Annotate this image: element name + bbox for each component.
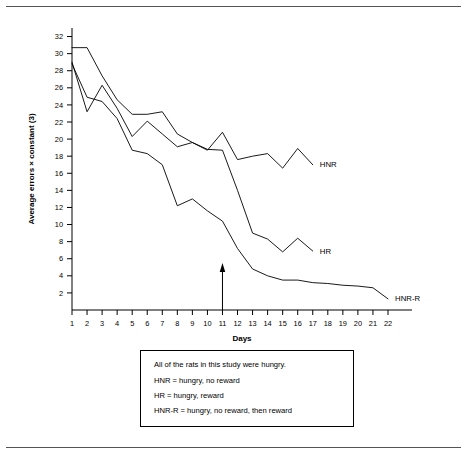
x-tick-label: 21: [369, 319, 377, 328]
y-tick-label: 6: [59, 254, 63, 263]
x-tick-label: 15: [279, 319, 287, 328]
x-tick-label: 7: [160, 319, 164, 328]
y-tick-label: 8: [59, 237, 63, 246]
chart-series-lines: [72, 48, 388, 299]
y-tick-label: 10: [55, 220, 63, 229]
y-tick-label: 18: [55, 152, 63, 161]
y-tick-label: 24: [55, 101, 63, 110]
x-tick-label: 10: [203, 319, 211, 328]
x-tick-label: 18: [324, 319, 332, 328]
arrow-head-icon: [220, 263, 226, 272]
y-tick-label: 20: [55, 135, 63, 144]
series-line-hr: [72, 62, 313, 252]
x-tick-label: 9: [190, 319, 194, 328]
x-tick-label: 8: [175, 319, 179, 328]
x-tick-label: 11: [219, 319, 227, 328]
x-tick-label: 1: [70, 319, 74, 328]
series-line-hnr-r: [72, 64, 388, 299]
chart-canvas: 2468101214161820222426283032 12345678910…: [0, 10, 467, 350]
chart-series-labels: HNRHRHNR-R: [320, 160, 421, 303]
x-tick-label: 5: [130, 319, 134, 328]
x-tick-label: 2: [85, 319, 89, 328]
y-tick-label: 28: [55, 66, 63, 75]
x-tick-label: 19: [339, 319, 347, 328]
x-tick-label: 20: [354, 319, 362, 328]
x-tick-label: 6: [145, 319, 149, 328]
y-tick-label: 30: [55, 49, 63, 58]
y-tick-label: 32: [55, 32, 63, 41]
x-tick-label: 3: [100, 319, 104, 328]
y-tick-label: 2: [59, 289, 63, 298]
legend-line: All of the rats in this study were hungr…: [141, 358, 353, 373]
x-tick-label: 14: [264, 319, 272, 328]
legend-line: HNR-R = hungry, no reward, then reward: [141, 403, 353, 418]
x-tick-label: 16: [294, 319, 302, 328]
x-axis-title: Days: [232, 334, 252, 343]
y-axis-ticks: 2468101214161820222426283032: [55, 32, 72, 297]
chart-axes: [72, 28, 412, 310]
y-tick-label: 12: [55, 203, 63, 212]
y-axis-title: Average errors × constant (3): [27, 113, 36, 224]
y-tick-label: 26: [55, 83, 63, 92]
x-tick-label: 4: [115, 319, 119, 328]
series-label-hnr-r: HNR-R: [395, 294, 420, 303]
y-tick-label: 4: [59, 271, 63, 280]
legend-box: All of the rats in this study were hungr…: [140, 350, 354, 427]
legend-line: HNR = hungry, no reward: [141, 373, 353, 388]
page-rule-top: [6, 6, 461, 7]
reward-onset-arrow: [220, 263, 226, 310]
legend-line: HR = hungry, reward: [141, 388, 353, 403]
y-tick-label: 16: [55, 169, 63, 178]
series-label-hnr: HNR: [320, 160, 337, 169]
x-tick-label: 12: [233, 319, 241, 328]
x-tick-label: 17: [309, 319, 317, 328]
x-axis-ticks: 12345678910111213141516171819202122: [70, 310, 392, 328]
x-tick-label: 22: [384, 319, 392, 328]
series-label-hr: HR: [320, 247, 332, 256]
y-tick-label: 22: [55, 118, 63, 127]
x-tick-label: 13: [248, 319, 256, 328]
y-tick-label: 14: [55, 186, 63, 195]
